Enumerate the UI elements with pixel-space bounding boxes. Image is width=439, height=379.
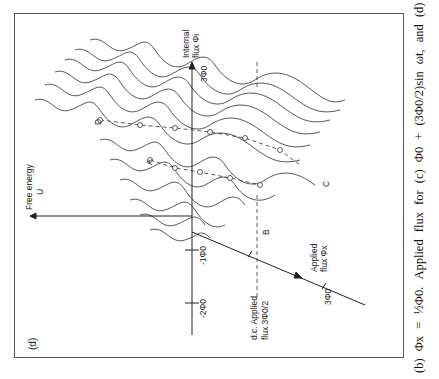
dc-applied-flux-label: d.c. Applied — [250, 296, 259, 340]
free-energy-axis-label: Free energy — [25, 164, 34, 210]
internal-flux-axis-label: Internal — [182, 30, 191, 58]
internal-flux-tick: 3Φ0 — [200, 66, 209, 82]
internal-flux-symbol: flux Φi — [192, 34, 201, 58]
point-label-d: D — [94, 119, 103, 125]
dc-applied-flux-value: flux 3Φ0/2 — [261, 301, 270, 340]
point-label-b: B — [262, 229, 271, 235]
tick-minus-2-phi0: -2Φ0 — [199, 299, 208, 318]
applied-flux-axis-label: Applied — [310, 244, 319, 272]
figure-caption: (b) Φx = ½Φ0. Applied flux for (c) Φ0 + … — [412, 2, 427, 373]
applied-flux-symbol: flux Φx — [320, 245, 329, 272]
panel-label: (d) — [28, 338, 38, 350]
energy-surface-plot — [0, 0, 439, 379]
free-energy-symbol: U — [36, 189, 45, 195]
point-label-c: C — [322, 181, 331, 187]
point-label-a: A — [145, 159, 154, 165]
free-energy-surface-figure: (d) Free energy U Internal flux Φi 3Φ0 -… — [0, 0, 439, 379]
tick-minus-1-phi0: -1Φ0 — [199, 246, 208, 265]
applied-flux-tick: 3Φ0 — [324, 289, 333, 305]
